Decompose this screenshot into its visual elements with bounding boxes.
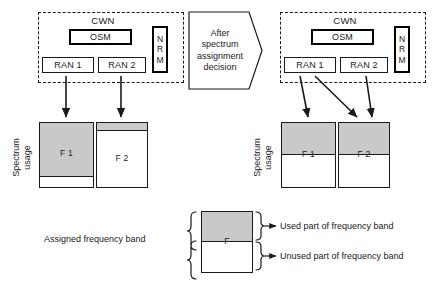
legend-used-part-label: Used part of frequency band: [280, 221, 394, 232]
left-band-f2: F 2: [96, 122, 148, 188]
left-ran1-box: RAN 1: [42, 57, 94, 73]
legend-band-label: F: [202, 237, 252, 246]
transition-line3: assignment: [197, 51, 243, 61]
left-band-f2-used-part: [97, 123, 147, 131]
legend-assigned-band-label: Assigned frequency band: [44, 234, 146, 245]
left-nrm-letter-n: N: [157, 34, 163, 45]
right-nrm-box: N R M: [394, 26, 410, 73]
left-band-f1-label: F 1: [40, 149, 93, 158]
legend-unused-part-label: Unused part of frequency band: [280, 251, 404, 262]
transition-line2: spectrum: [201, 39, 238, 49]
left-nrm-letter-m: M: [156, 55, 163, 66]
right-band-f2-label: F 2: [339, 150, 389, 159]
legend-left-brace: [187, 212, 196, 279]
left-nrm-letter-r: R: [157, 44, 163, 55]
right-ran2-box: RAN 2: [340, 57, 388, 73]
transition-callout-text: After spectrum assignment decision: [197, 28, 251, 74]
left-band-f1: F 1: [39, 122, 94, 188]
right-band-f2: F 2: [338, 122, 390, 188]
right-axis-line1: Spectrum: [252, 138, 262, 177]
right-band-f1: F 1: [281, 122, 336, 188]
right-nrm-letter-r: R: [399, 44, 405, 55]
left-cwn-title: CWN: [38, 15, 168, 26]
legend-used-brace: [256, 212, 265, 240]
left-axis-line2: usage: [21, 145, 31, 170]
legend-unused-brace: [256, 242, 265, 270]
right-ran1-box: RAN 1: [284, 57, 336, 73]
right-axis-line2: usage: [262, 145, 272, 170]
right-cwn-title: CWN: [280, 15, 410, 26]
transition-line4: decision: [203, 62, 236, 72]
right-band-f1-label: F 1: [282, 150, 335, 159]
left-axis-line1: Spectrum: [11, 138, 21, 177]
right-osm-box: OSM: [311, 29, 374, 45]
right-nrm-letter-m: M: [398, 55, 405, 66]
left-nrm-box: N R M: [152, 26, 168, 73]
left-spectrum-usage-axis-label: Spectrum usage: [11, 121, 32, 195]
figure-canvas: CWN OSM N R M RAN 1 RAN 2 Spectrum usage…: [0, 0, 445, 283]
transition-line1: After: [210, 28, 229, 38]
transition-callout: After spectrum assignment decision: [188, 11, 260, 90]
right-spectrum-usage-axis-label: Spectrum usage: [252, 121, 273, 195]
left-osm-box: OSM: [69, 29, 132, 45]
legend-band-f: F: [201, 211, 253, 273]
right-nrm-letter-n: N: [399, 34, 405, 45]
left-band-f2-label: F 2: [97, 154, 147, 163]
left-ran2-box: RAN 2: [98, 57, 146, 73]
